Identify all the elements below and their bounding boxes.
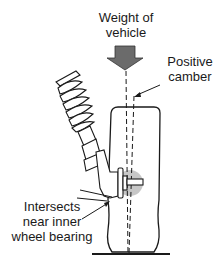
intersects-label-line2: near inner bbox=[2, 214, 102, 229]
weight-label-line2: vehicle bbox=[88, 25, 164, 40]
intersects-label-line1: Intersects bbox=[2, 199, 102, 214]
intersects-label: Intersects near inner wheel bearing bbox=[2, 199, 102, 244]
camber-label-line1: Positive bbox=[160, 54, 220, 69]
coil-spring bbox=[56, 71, 94, 132]
positive-camber-label: Positive camber bbox=[160, 54, 220, 84]
weight-of-vehicle-label: Weight of vehicle bbox=[88, 10, 164, 40]
intersects-label-line3: wheel bearing bbox=[2, 229, 102, 244]
weight-label-line1: Weight of bbox=[88, 10, 164, 25]
weight-arrow bbox=[107, 46, 143, 70]
camber-leader bbox=[137, 85, 160, 95]
camber-label-line2: camber bbox=[160, 69, 220, 84]
